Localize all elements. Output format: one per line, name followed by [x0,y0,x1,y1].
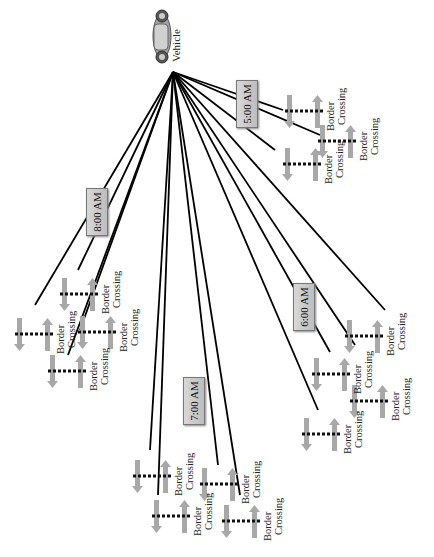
border-crossing-icon [47,355,86,388]
border-crossing-label: BorderCrossing [55,311,77,354]
time-label-box: 6:00 AM [293,283,315,331]
border-crossing-icon [284,95,323,128]
time-label: 5:00 AM [241,84,253,123]
border-crossing-label: BorderCrossing [173,453,195,496]
connection-line [78,72,173,270]
border-crossing-icon [344,320,383,353]
border-crossing-icon [282,148,321,181]
border-crossing-label: BorderCrossing [100,271,122,314]
border-crossing-icon [132,460,171,493]
time-label: 8:00 AM [91,192,103,231]
vehicle-label: Vehicle [170,29,182,62]
border-crossing-label: BorderCrossing [325,88,347,131]
border-crossing-label: BorderCrossing [352,351,374,394]
border-crossing-label: BorderCrossing [118,309,140,352]
border-crossing-icon [14,318,53,351]
time-label: 6:00 AM [298,287,310,326]
border-crossing-label: BorderCrossing [358,118,380,161]
connection-line [173,72,275,150]
time-label: 7:00 AM [188,381,200,420]
time-label-box: 5:00 AM [236,80,258,128]
border-crossing-label: BorderCrossing [385,313,407,356]
border-crossing-icon [77,316,116,349]
border-crossing-label: BorderCrossing [390,378,412,421]
border-crossing-label: BorderCrossing [323,141,345,184]
border-crossing-icon [311,358,350,391]
border-crossing-label: BorderCrossing [342,411,364,454]
border-crossing-icon [151,500,190,533]
border-crossing-label: BorderCrossing [262,498,284,541]
time-label-box: 7:00 AM [183,377,205,425]
border-crossing-icon [221,505,260,538]
diagram-canvas [0,0,434,557]
border-crossing-icon [301,418,340,451]
border-crossing-label: BorderCrossing [240,461,262,504]
time-label-box: 8:00 AM [86,188,108,236]
border-crossing-label: BorderCrossing [192,493,214,536]
border-crossing-label: BorderCrossing [88,348,110,391]
border-crossing-icon [59,278,98,311]
car-icon [153,10,171,63]
